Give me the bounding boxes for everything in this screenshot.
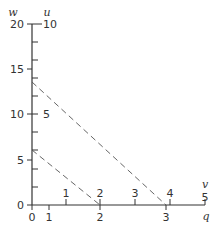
- w-tick-15: 15: [10, 63, 24, 76]
- q-tick-0: 0: [29, 211, 36, 224]
- q-axis-label: q: [202, 210, 209, 223]
- q-tick-1: 1: [46, 211, 53, 224]
- vertical-axis-ticks: [27, 24, 42, 205]
- q-tick-2: 2: [97, 211, 104, 224]
- u-tick-10: 10: [43, 18, 57, 31]
- v-axis-label: v: [202, 178, 209, 191]
- u-tick-5: 5: [43, 108, 50, 121]
- v-tick-4: 4: [167, 187, 174, 200]
- w-tick-20: 20: [10, 18, 24, 31]
- v-tick-5: 5: [202, 191, 209, 204]
- w-tick-10: 10: [10, 108, 24, 121]
- v-tick-2: 2: [97, 187, 104, 200]
- v-tick-1: 1: [63, 187, 70, 200]
- nomogram-chart: w u v q 20 15 10 5 0 10 5 1 2 3 4 5 0 1 …: [0, 0, 217, 234]
- q-tick-3: 3: [163, 211, 170, 224]
- w-tick-5: 5: [17, 154, 24, 167]
- w-tick-0: 0: [17, 199, 24, 212]
- q-axis-ticks: [32, 205, 166, 210]
- v-tick-3: 3: [132, 187, 139, 200]
